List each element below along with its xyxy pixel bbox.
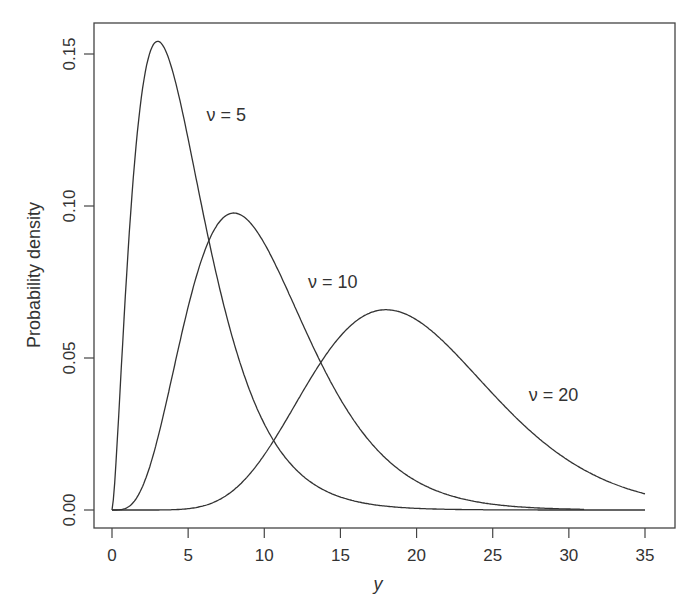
curve-label: ν = 10 xyxy=(308,272,358,292)
plot-frame xyxy=(94,23,675,528)
curve-label: ν = 20 xyxy=(529,385,579,405)
x-tick-label: 0 xyxy=(107,546,116,565)
x-tick-label: 15 xyxy=(331,546,350,565)
y-tick-label: 0.15 xyxy=(60,37,79,70)
curve-df-20 xyxy=(112,310,645,510)
y-tick-label: 0.05 xyxy=(60,341,79,374)
y-axis-label: Probability density xyxy=(24,202,44,348)
y-axis: 0.000.050.100.15 xyxy=(60,37,94,526)
x-axis-label: y xyxy=(372,574,384,594)
x-tick-label: 10 xyxy=(255,546,274,565)
annotations: ν = 5ν = 10ν = 20 xyxy=(206,105,578,405)
x-axis: 05101520253035 xyxy=(107,528,654,565)
x-tick-label: 20 xyxy=(407,546,426,565)
curve-df-5 xyxy=(112,41,645,510)
x-tick-label: 35 xyxy=(636,546,655,565)
y-tick-label: 0.00 xyxy=(60,493,79,526)
x-tick-label: 25 xyxy=(483,546,502,565)
x-tick-label: 5 xyxy=(183,546,192,565)
x-tick-label: 30 xyxy=(559,546,578,565)
curve-df-10 xyxy=(112,213,584,510)
curves xyxy=(112,41,645,510)
curve-label: ν = 5 xyxy=(206,105,246,125)
chart: 0.000.050.100.15 05101520253035 ν = 5ν =… xyxy=(0,0,694,607)
y-tick-label: 0.10 xyxy=(60,189,79,222)
